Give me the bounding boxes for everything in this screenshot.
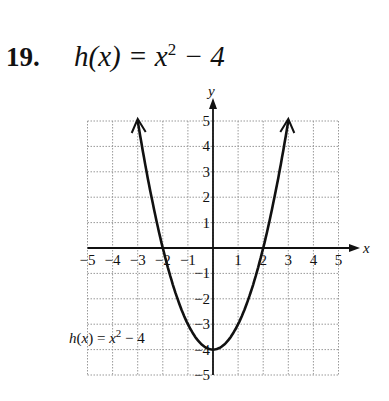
y-tick-label: 2 xyxy=(203,189,211,205)
x-tick-label: −4 xyxy=(105,252,121,268)
x-tick-label: 4 xyxy=(310,252,318,268)
y-axis-label: y xyxy=(206,83,215,99)
y-tick-label: 3 xyxy=(203,164,211,180)
x-tick-label: −3 xyxy=(130,252,146,268)
y-tick-label: −3 xyxy=(194,316,210,332)
x-axis-label: x xyxy=(362,240,370,256)
y-tick-label: 5 xyxy=(203,113,211,129)
y-tick-label: −5 xyxy=(194,367,210,383)
function-graph: xy−5−4−3−2−112345−5−4−3−2−112345h(x) = x… xyxy=(0,0,389,401)
x-tick-label: −5 xyxy=(80,252,96,268)
y-tick-label: 1 xyxy=(203,215,211,231)
x-tick-label: 5 xyxy=(335,252,343,268)
x-tick-label: 1 xyxy=(234,252,242,268)
y-axis-arrow-icon xyxy=(209,98,217,109)
curve-annotation: h(x) = x2 − 4 xyxy=(69,327,145,347)
y-tick-label: −1 xyxy=(194,265,210,281)
y-tick-label: 4 xyxy=(203,138,211,154)
y-tick-label: −2 xyxy=(194,291,210,307)
x-axis-arrow-icon xyxy=(349,244,360,252)
x-tick-label: 3 xyxy=(285,252,293,268)
